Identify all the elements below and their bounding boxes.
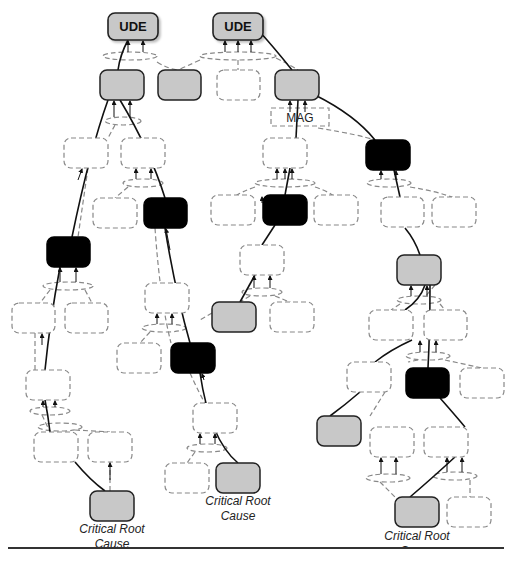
dashed-node[interactable] <box>424 310 467 340</box>
dashed-node[interactable] <box>64 138 108 168</box>
dashed-node[interactable] <box>370 427 414 457</box>
gray-node[interactable] <box>212 302 256 332</box>
dashed-node[interactable] <box>26 370 70 400</box>
caption-line: Critical Root <box>193 494 283 509</box>
ude-node-1[interactable]: UDE <box>108 13 158 40</box>
dashed-node[interactable] <box>193 403 237 433</box>
root-cause-node-1[interactable] <box>90 491 134 521</box>
black-node[interactable] <box>263 195 307 225</box>
black-node[interactable] <box>366 140 410 170</box>
dashed-node[interactable] <box>217 70 260 100</box>
dashed-node[interactable] <box>117 343 161 373</box>
black-node[interactable] <box>144 198 187 228</box>
dashed-node[interactable] <box>347 362 391 392</box>
ude-label: UDE <box>224 19 252 34</box>
dashed-node[interactable] <box>432 197 476 227</box>
gray-node[interactable] <box>275 70 319 100</box>
ude-label: UDE <box>119 19 147 34</box>
black-node[interactable] <box>47 237 90 267</box>
ude-node-2[interactable]: UDE <box>213 13 263 40</box>
current-reality-tree-diagram: UDE UDE MAG <box>0 0 519 566</box>
caption-line: Cause <box>193 509 283 524</box>
caption-line: Cause <box>67 537 157 552</box>
caption-line: Critical Root <box>372 529 462 544</box>
black-node[interactable] <box>406 368 449 398</box>
root-cause-caption-2: Critical Root Cause <box>193 494 283 524</box>
dashed-node[interactable] <box>34 432 78 462</box>
dashed-node[interactable] <box>121 138 165 168</box>
gray-node[interactable] <box>317 416 361 446</box>
bottom-divider <box>8 547 504 549</box>
root-cause-node-2[interactable] <box>216 463 260 493</box>
dashed-node[interactable] <box>12 303 55 333</box>
dashed-node[interactable] <box>381 197 424 227</box>
dashed-node[interactable] <box>424 427 468 457</box>
dashed-node[interactable] <box>240 245 284 275</box>
gray-node[interactable] <box>158 70 201 100</box>
magnitude-label: MAG <box>286 111 313 125</box>
dashed-node[interactable] <box>270 302 314 332</box>
dashed-node[interactable] <box>314 195 358 225</box>
dashed-node[interactable] <box>145 283 189 313</box>
dashed-node[interactable] <box>88 432 132 462</box>
dashed-node[interactable] <box>460 368 504 398</box>
dashed-node[interactable] <box>447 497 491 527</box>
dashed-node[interactable] <box>65 303 108 333</box>
dashed-node[interactable] <box>263 138 307 168</box>
dashed-node[interactable] <box>211 195 255 225</box>
root-cause-caption-3: Critical Root Cause <box>372 529 462 547</box>
dashed-node[interactable] <box>165 463 209 493</box>
gray-node[interactable] <box>397 255 441 285</box>
black-node[interactable] <box>171 343 215 373</box>
gray-node[interactable] <box>100 70 144 100</box>
root-cause-node-3[interactable] <box>395 497 439 527</box>
dashed-node[interactable] <box>93 198 137 228</box>
dashed-node[interactable] <box>369 310 413 340</box>
caption-line: Critical Root <box>67 522 157 537</box>
